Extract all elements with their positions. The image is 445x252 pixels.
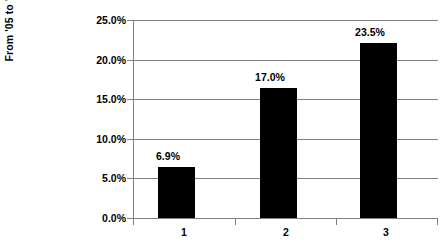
y-tick-label-10: 10.0% bbox=[80, 133, 126, 145]
y-tick-label-20: 20.0% bbox=[80, 54, 126, 66]
bar-category-2 bbox=[260, 88, 297, 218]
x-category-label-1: 1 bbox=[154, 226, 214, 238]
bar-chart: Percent Proficient Gains in Grade 3 Read… bbox=[0, 0, 445, 252]
bar-value-label-3: 23.5% bbox=[340, 26, 400, 38]
x-tickmark-left bbox=[133, 219, 134, 225]
x-tickmark-2 bbox=[336, 219, 337, 225]
bar-category-1 bbox=[158, 167, 195, 218]
y-tick-label-15: 15.0% bbox=[80, 93, 126, 105]
x-category-label-2: 2 bbox=[256, 226, 316, 238]
plot-area bbox=[133, 20, 438, 218]
bar-value-label-2: 17.0% bbox=[240, 71, 300, 83]
gridline-25 bbox=[133, 20, 438, 21]
x-category-label-3: 3 bbox=[356, 226, 416, 238]
y-tick-label-5: 5.0% bbox=[80, 172, 126, 184]
y-axis-title-line-3: From '05 to '07 bbox=[3, 0, 17, 61]
bar-category-3 bbox=[360, 43, 397, 218]
x-axis-baseline bbox=[133, 218, 438, 219]
bar-value-label-1: 6.9% bbox=[138, 150, 198, 162]
x-tickmark-right bbox=[437, 219, 438, 225]
y-tick-label-0: 0.0% bbox=[80, 212, 126, 224]
y-axis-tick-labels: 25.0% 20.0% 15.0% 10.0% 5.0% 0.0% bbox=[78, 0, 126, 252]
x-tickmark-1 bbox=[235, 219, 236, 225]
y-tick-label-25: 25.0% bbox=[80, 14, 126, 26]
y-axis-title: Percent Proficient Gains in Grade 3 Read… bbox=[0, 0, 25, 134]
